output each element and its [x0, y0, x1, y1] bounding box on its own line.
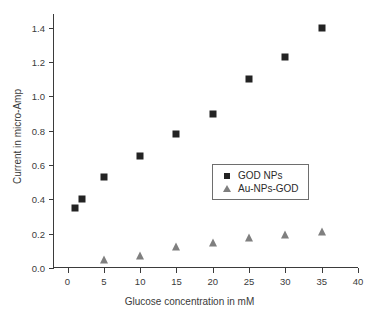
x-tick [213, 268, 214, 273]
data-point [245, 234, 253, 242]
x-tick-label: 20 [207, 276, 218, 287]
x-tick [140, 268, 141, 273]
square-marker-icon [220, 173, 234, 179]
y-tick-label: 0.2 [13, 228, 45, 239]
legend-label: GOD NPs [234, 170, 282, 181]
x-tick-label: 5 [101, 276, 106, 287]
x-tick-label: 10 [135, 276, 146, 287]
y-tick [49, 28, 54, 29]
x-axis-title: Glucose concentration in mM [0, 296, 379, 307]
y-tick [49, 268, 54, 269]
data-point [172, 243, 180, 251]
data-point [100, 256, 108, 264]
data-point [209, 239, 217, 247]
y-tick [49, 131, 54, 132]
data-point [100, 174, 107, 181]
x-tick-label: 0 [65, 276, 70, 287]
x-tick [249, 268, 250, 273]
legend-item-au-nps-god: Au-NPs-GOD [220, 182, 299, 195]
x-tick-label: 35 [316, 276, 327, 287]
x-tick [358, 268, 359, 273]
x-axis-line [53, 267, 358, 268]
y-tick [49, 199, 54, 200]
legend-item-god-nps: GOD NPs [220, 169, 299, 182]
y-axis-line [53, 14, 54, 268]
x-tick-label: 25 [244, 276, 255, 287]
y-tick [49, 165, 54, 166]
x-tick [322, 268, 323, 273]
x-tick-label: 40 [353, 276, 364, 287]
data-point [79, 196, 86, 203]
data-point [318, 24, 325, 31]
triangle-marker-icon [220, 185, 234, 192]
y-tick-label: 1.4 [13, 22, 45, 33]
x-tick [104, 268, 105, 273]
data-point [137, 153, 144, 160]
data-point [209, 110, 216, 117]
x-tick [68, 268, 69, 273]
data-point [71, 204, 78, 211]
data-point [136, 252, 144, 260]
legend-label: Au-NPs-GOD [234, 183, 299, 194]
data-point [281, 231, 289, 239]
y-tick [49, 234, 54, 235]
data-point [318, 228, 326, 236]
scatter-chart-figure: 0.00.20.40.60.81.01.21.4 051015202530354… [0, 0, 379, 318]
y-tick-label: 0.0 [13, 263, 45, 274]
y-axis-title: Current in micro-Amp [12, 52, 23, 222]
data-point [246, 76, 253, 83]
y-tick [49, 62, 54, 63]
data-point [282, 53, 289, 60]
data-point [173, 131, 180, 138]
x-tick [176, 268, 177, 273]
y-tick [49, 96, 54, 97]
chart-legend: GOD NPs Au-NPs-GOD [212, 164, 309, 200]
plot-area: 0.00.20.40.60.81.01.21.4 051015202530354… [53, 14, 358, 268]
x-tick-label: 15 [171, 276, 182, 287]
x-tick [285, 268, 286, 273]
x-tick-label: 30 [280, 276, 291, 287]
